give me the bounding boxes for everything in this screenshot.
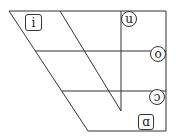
front-edge — [9, 11, 88, 131]
central-diagonal — [60, 11, 121, 111]
vowel-u: u — [121, 11, 137, 27]
vowel-i: i — [25, 14, 42, 31]
vowel-open-o: ɔ — [149, 89, 165, 105]
vowel-script-a: ɑ — [138, 114, 154, 130]
vowel-o: o — [150, 46, 166, 62]
